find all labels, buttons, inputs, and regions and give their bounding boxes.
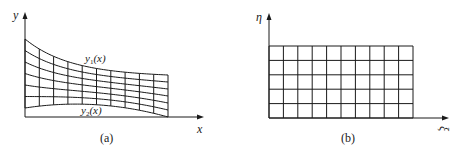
figure-b (267, 13, 450, 121)
eta-axis-label: η (256, 10, 262, 24)
figure-a (23, 12, 205, 120)
lower-curve-label: y2(x) (80, 104, 102, 118)
x-axis-arrow-a (197, 115, 204, 120)
rectangular-grid (269, 46, 413, 118)
upper-curve-argument: (x) (93, 52, 106, 65)
diagram-canvas: y x y1(x) y2(x) (a) η ξ (b) (0, 0, 457, 156)
lower-curve-argument: (x) (89, 104, 102, 117)
upper-curve-label: y1(x) (84, 52, 106, 66)
eta-axis-arrow (267, 13, 272, 20)
xi-axis-arrow (442, 116, 449, 121)
caption-b: (b) (341, 131, 355, 145)
xi-axis-label: ξ (437, 126, 451, 132)
y-axis-arrow-a (23, 12, 28, 19)
y-axis-label-a: y (12, 8, 19, 22)
caption-a: (a) (100, 131, 113, 145)
x-axis-label-a: x (196, 122, 203, 136)
